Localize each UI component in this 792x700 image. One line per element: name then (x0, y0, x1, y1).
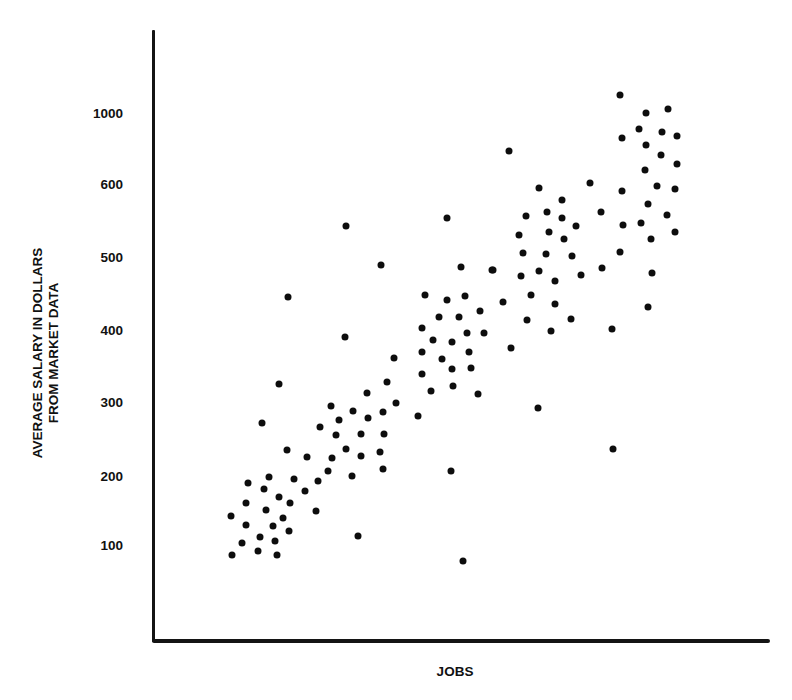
data-point (638, 219, 645, 226)
data-point (317, 424, 324, 431)
data-point (448, 467, 455, 474)
data-point (275, 493, 282, 500)
data-point (552, 278, 559, 285)
data-point (304, 453, 311, 460)
y-axis-title-line-2: FROM MARKET DATA (46, 248, 62, 459)
y-tick-label: 100 (100, 538, 123, 553)
data-point (490, 267, 497, 274)
data-point (465, 349, 472, 356)
data-point (275, 381, 282, 388)
data-point (546, 229, 553, 236)
data-point (535, 404, 542, 411)
data-point (393, 399, 400, 406)
data-point (280, 515, 287, 522)
data-point (672, 186, 679, 193)
data-point (644, 303, 651, 310)
data-point (245, 479, 252, 486)
y-tick-label: 600 (100, 177, 123, 192)
data-point (422, 292, 429, 299)
data-point (238, 539, 245, 546)
data-point (285, 528, 292, 535)
data-point (597, 208, 604, 215)
data-point (343, 223, 350, 230)
data-point (283, 447, 290, 454)
data-point (243, 499, 250, 506)
data-point (664, 211, 671, 218)
data-point (328, 455, 335, 462)
data-point (285, 294, 292, 301)
data-point (567, 316, 574, 323)
data-point (617, 248, 624, 255)
y-axis-title: AVERAGE SALARY IN DOLLARS FROM MARKET DA… (30, 248, 62, 459)
data-point (643, 110, 650, 117)
data-point (449, 339, 456, 346)
data-point (506, 148, 513, 155)
data-point (380, 430, 387, 437)
data-point (617, 92, 624, 99)
data-point (391, 355, 398, 362)
y-axis-line (152, 30, 155, 642)
data-point (419, 349, 426, 356)
data-point (333, 432, 340, 439)
data-point (414, 413, 421, 420)
data-point (560, 235, 567, 242)
data-point (477, 308, 484, 315)
x-axis-line (152, 639, 770, 643)
y-tick-label: 1000 (93, 106, 123, 121)
data-point (647, 235, 654, 242)
data-point (272, 537, 279, 544)
data-point (449, 383, 456, 390)
data-point (364, 415, 371, 422)
data-point (552, 300, 559, 307)
data-point (314, 477, 321, 484)
scatter-chart: AVERAGE SALARY IN DOLLARS FROM MARKET DA… (0, 0, 792, 700)
y-axis-title-line-1: AVERAGE SALARY IN DOLLARS (30, 248, 46, 459)
data-point (287, 499, 294, 506)
y-tick-label: 400 (100, 323, 123, 338)
data-point (464, 329, 471, 336)
data-point (419, 370, 426, 377)
data-point (274, 551, 281, 558)
y-tick-label: 300 (100, 395, 123, 410)
data-point (327, 402, 334, 409)
data-point (620, 221, 627, 228)
data-point (643, 141, 650, 148)
data-point (449, 365, 456, 372)
data-point (254, 548, 261, 555)
data-point (261, 486, 268, 493)
data-point (229, 551, 236, 558)
data-point (462, 292, 469, 299)
data-point (430, 337, 437, 344)
data-point (480, 329, 487, 336)
data-point (673, 160, 680, 167)
data-point (380, 409, 387, 416)
data-point (636, 126, 643, 133)
data-point (354, 533, 361, 540)
data-point (543, 251, 550, 258)
data-point (586, 179, 593, 186)
data-point (649, 270, 656, 277)
data-point (599, 264, 606, 271)
data-point (536, 184, 543, 191)
data-point (269, 522, 276, 529)
data-point (457, 264, 464, 271)
data-point (672, 229, 679, 236)
data-point (364, 389, 371, 396)
data-point (654, 183, 661, 190)
data-point (383, 378, 390, 385)
data-point (438, 355, 445, 362)
data-point (507, 345, 514, 352)
data-point (523, 316, 530, 323)
data-point (475, 391, 482, 398)
data-point (357, 453, 364, 460)
data-point (291, 475, 298, 482)
data-point (456, 313, 463, 320)
data-point (641, 167, 648, 174)
data-point (544, 208, 551, 215)
data-point (517, 273, 524, 280)
data-point (644, 200, 651, 207)
data-point (673, 133, 680, 140)
data-point (536, 267, 543, 274)
data-point (335, 416, 342, 423)
data-point (343, 446, 350, 453)
